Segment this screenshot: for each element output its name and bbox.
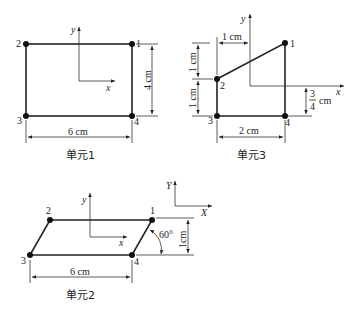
- x-axis-label: x: [105, 82, 111, 93]
- offset-label: 1 cm: [222, 31, 242, 42]
- x-axis-label: x: [118, 237, 124, 248]
- fraction-numerator: 3: [310, 88, 315, 99]
- node-2-label: 2: [220, 80, 225, 91]
- node-1-dot: [282, 40, 288, 46]
- node-1-label: 1: [290, 38, 295, 49]
- element-3-outline: [217, 43, 285, 116]
- angle-label: 60°: [159, 229, 173, 240]
- width-label: 6 cm: [68, 126, 88, 137]
- element-1-caption: 单元1: [66, 149, 95, 162]
- element-3-caption: 单元3: [237, 149, 266, 162]
- element-3: 1 2 3 4 y x 1 cm 1 cm 1 cm 3 4 cm 2 cm 单…: [187, 13, 344, 162]
- element-2-caption: 单元2: [66, 289, 95, 302]
- node-3-dot: [27, 252, 33, 258]
- y-axis-label: y: [240, 13, 246, 24]
- element-2-parallelogram: [30, 220, 152, 255]
- node-3-dot: [23, 113, 29, 119]
- width-label: 2 cm: [239, 125, 259, 136]
- node-4-label: 4: [134, 256, 139, 267]
- node-3-label: 3: [17, 115, 22, 126]
- element-2: 1 2 3 4 y x 60° 1cm 6 cm 单元2: [21, 193, 194, 302]
- element-1: 1 2 3 4 y x 4 cm 6 cm 单元1: [16, 24, 158, 162]
- fraction-unit: cm: [319, 95, 331, 106]
- node-1-label: 1: [150, 205, 155, 216]
- height-label: 1cm: [177, 231, 188, 248]
- node-2-label: 2: [46, 205, 51, 216]
- node-1-dot: [129, 41, 135, 47]
- node-4-label: 4: [285, 117, 290, 128]
- node-4-label: 4: [134, 116, 139, 127]
- node-2-dot: [47, 217, 53, 223]
- node-2-dot: [23, 41, 29, 47]
- upper-height-label: 1 cm: [187, 52, 198, 72]
- node-3-dot: [214, 113, 220, 119]
- global-y-label: Y: [166, 180, 173, 191]
- node-3-label: 3: [208, 115, 213, 126]
- lower-height-label: 1 cm: [187, 88, 198, 108]
- node-1-dot: [149, 217, 155, 223]
- y-axis-label: y: [81, 194, 87, 205]
- node-3-label: 3: [21, 255, 26, 266]
- fraction-denominator: 4: [310, 101, 315, 112]
- global-x-label: X: [200, 207, 208, 218]
- node-1-label: 1: [136, 38, 141, 49]
- finite-element-diagram: 1 2 3 4 y x 4 cm 6 cm 单元1 1 2 3 4 y x: [0, 0, 357, 314]
- height-label: 4 cm: [142, 70, 153, 90]
- width-label: 6 cm: [70, 266, 90, 277]
- global-axes: Y X: [166, 180, 212, 218]
- node-2-label: 2: [16, 38, 21, 49]
- y-axis-label: y: [70, 24, 76, 35]
- x-axis-label: x: [335, 86, 341, 97]
